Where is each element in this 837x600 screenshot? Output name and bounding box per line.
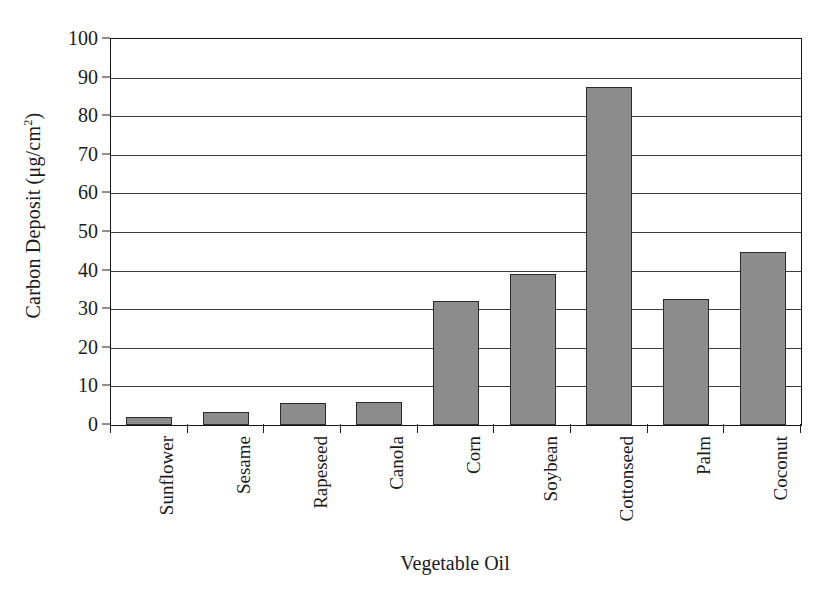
x-axis-tick-marks <box>110 424 800 433</box>
bar <box>663 299 709 425</box>
y-axis-tick-mark <box>102 153 110 154</box>
x-axis-tick-label: Palm <box>693 436 715 556</box>
bar <box>740 252 786 425</box>
y-axis-tick-mark <box>102 346 110 347</box>
bar <box>510 274 556 425</box>
y-axis-tick-label: 10 <box>46 374 98 397</box>
x-axis-tick-mark <box>647 424 648 433</box>
bar <box>356 402 402 425</box>
y-axis-tick-mark <box>102 192 110 193</box>
x-axis-tick-mark <box>800 424 801 433</box>
x-axis-tick-label: Coconut <box>770 436 792 556</box>
bars <box>111 39 801 425</box>
y-axis-tick-label: 80 <box>46 104 98 127</box>
x-axis-tick-label: Sesame <box>233 436 255 556</box>
y-axis-tick-labels: 1009080706050403020100 <box>40 38 98 424</box>
x-axis-tick-mark <box>187 424 188 433</box>
x-axis-tick-label: Soybean <box>540 436 562 556</box>
y-axis-tick-mark <box>102 231 110 232</box>
y-axis-tick-label: 0 <box>46 413 98 436</box>
x-axis-tick-mark <box>110 424 111 433</box>
x-axis-tick-mark <box>263 424 264 433</box>
y-axis-tick-label: 60 <box>46 181 98 204</box>
y-axis-tick-label: 70 <box>46 142 98 165</box>
plot-area <box>110 38 802 426</box>
y-axis-tick-mark <box>102 38 110 39</box>
y-axis-tick-label: 50 <box>46 220 98 243</box>
x-axis-tick-mark <box>723 424 724 433</box>
y-axis-tick-mark <box>102 115 110 116</box>
x-axis-tick-mark <box>570 424 571 433</box>
x-axis-tick-label: Sunflower <box>156 436 178 556</box>
y-axis-title-superscript: 2 <box>21 119 35 125</box>
bar <box>586 87 632 425</box>
y-axis-tick-label: 100 <box>46 27 98 50</box>
x-axis-tick-label: Cottonseed <box>616 436 638 556</box>
y-axis-tick-label: 30 <box>46 297 98 320</box>
x-axis-tick-labels: SunflowerSesameRapeseedCanolaCornSoybean… <box>110 436 800 546</box>
x-axis-tick-label: Rapeseed <box>310 436 332 556</box>
y-axis-tick-mark <box>102 269 110 270</box>
y-axis-tick-label: 40 <box>46 258 98 281</box>
y-axis-tick-mark <box>102 424 110 425</box>
y-axis-tick-mark <box>102 308 110 309</box>
x-axis-tick-mark <box>417 424 418 433</box>
y-axis-tick-marks <box>102 38 110 424</box>
x-axis-tick-mark <box>493 424 494 433</box>
bar <box>203 412 249 426</box>
x-axis-title: Vegetable Oil <box>110 552 800 575</box>
y-axis-tick-mark <box>102 385 110 386</box>
y-axis-tick-label: 20 <box>46 335 98 358</box>
y-axis-tick-mark <box>102 76 110 77</box>
x-axis-tick-label: Corn <box>463 436 485 556</box>
bar <box>433 301 479 425</box>
bar-chart: Carbon Deposit (μg/cm2) 1009080706050403… <box>0 0 837 600</box>
bar <box>280 403 326 425</box>
x-axis-tick-label: Canola <box>386 436 408 556</box>
y-axis-tick-label: 90 <box>46 65 98 88</box>
x-axis-tick-mark <box>340 424 341 433</box>
